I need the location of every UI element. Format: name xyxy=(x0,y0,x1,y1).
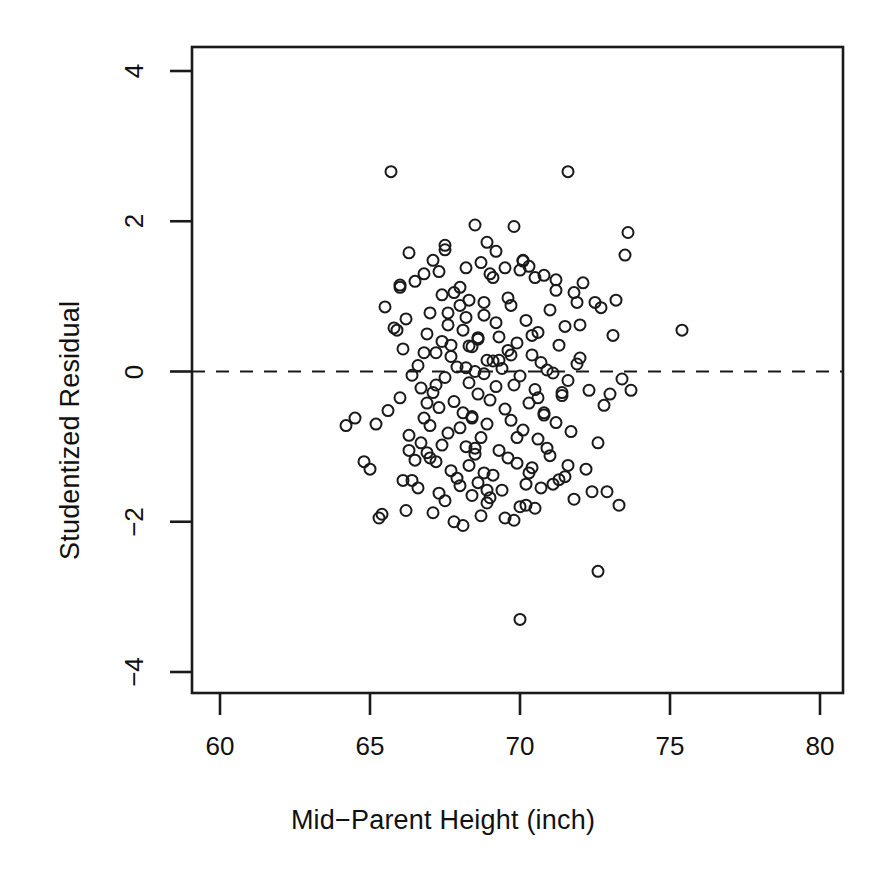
data-point xyxy=(359,456,370,467)
data-point xyxy=(479,297,490,308)
data-point xyxy=(491,317,502,328)
data-point xyxy=(611,295,622,306)
data-point xyxy=(626,385,637,396)
data-point xyxy=(581,464,592,475)
data-point xyxy=(515,614,526,625)
x-tick-label-75: 75 xyxy=(656,731,685,762)
data-point xyxy=(491,381,502,392)
data-point xyxy=(434,488,445,499)
data-point xyxy=(572,297,583,308)
data-point xyxy=(398,343,409,354)
y-tick-label--4: −4 xyxy=(119,657,150,687)
data-point xyxy=(563,375,574,386)
data-point xyxy=(449,396,460,407)
data-point xyxy=(380,301,391,312)
data-point xyxy=(443,428,454,439)
data-point xyxy=(416,383,427,394)
data-point xyxy=(575,319,586,330)
data-point xyxy=(497,485,508,496)
data-point xyxy=(593,566,604,577)
data-point xyxy=(365,464,376,475)
data-point xyxy=(473,389,484,400)
data-point xyxy=(467,490,478,501)
data-point xyxy=(551,285,562,296)
x-axis-title: Mid−Parent Height (inch) xyxy=(0,805,886,836)
data-point xyxy=(455,422,466,433)
data-point xyxy=(410,276,421,287)
data-point xyxy=(461,312,472,323)
data-point xyxy=(428,507,439,518)
data-point xyxy=(443,307,454,318)
data-point xyxy=(443,319,454,330)
y-tick-label-4: 4 xyxy=(119,64,150,78)
data-point xyxy=(419,347,430,358)
data-point xyxy=(509,380,520,391)
y-tick-label-2: 2 xyxy=(119,214,150,228)
data-point xyxy=(422,398,433,409)
data-point xyxy=(602,486,613,497)
data-point xyxy=(551,417,562,428)
data-point xyxy=(506,415,517,426)
data-point xyxy=(551,274,562,285)
data-point xyxy=(554,340,565,351)
data-point xyxy=(518,425,529,436)
data-point xyxy=(617,374,628,385)
data-point xyxy=(464,460,475,471)
data-point xyxy=(425,307,436,318)
data-point xyxy=(584,385,595,396)
data-point xyxy=(677,325,688,336)
data-point xyxy=(431,347,442,358)
data-point xyxy=(464,377,475,388)
x-tick-label-80: 80 xyxy=(806,731,835,762)
data-point xyxy=(389,322,400,333)
plot-box xyxy=(192,47,843,693)
x-tick-label-60: 60 xyxy=(206,731,235,762)
data-point xyxy=(500,262,511,273)
y-tick-label-0: 0 xyxy=(119,364,150,378)
data-point xyxy=(593,437,604,448)
data-point xyxy=(533,434,544,445)
data-point xyxy=(569,494,580,505)
data-point xyxy=(428,255,439,266)
data-point xyxy=(623,227,634,238)
data-point xyxy=(476,257,487,268)
data-point xyxy=(509,221,520,232)
data-point xyxy=(512,458,523,469)
data-point xyxy=(401,313,412,324)
data-point xyxy=(350,413,361,424)
data-point xyxy=(446,465,457,476)
data-point xyxy=(425,420,436,431)
data-point xyxy=(470,220,481,231)
data-point xyxy=(578,277,589,288)
data-point xyxy=(437,289,448,300)
scatter-plot-figure: 6065707580 −4−2024 Mid−Parent Height (in… xyxy=(0,0,886,891)
data-point xyxy=(605,389,616,400)
data-point xyxy=(413,482,424,493)
data-point xyxy=(587,486,598,497)
data-point xyxy=(614,500,625,511)
data-point xyxy=(461,262,472,273)
data-point xyxy=(446,351,457,362)
data-point xyxy=(479,310,490,321)
data-point xyxy=(512,432,523,443)
data-point xyxy=(476,510,487,521)
data-point xyxy=(536,482,547,493)
data-point xyxy=(608,330,619,341)
x-tick-label-65: 65 xyxy=(356,731,385,762)
data-point xyxy=(401,505,412,516)
data-point xyxy=(386,166,397,177)
data-point xyxy=(458,325,469,336)
data-point xyxy=(482,419,493,430)
data-point xyxy=(434,402,445,413)
data-point xyxy=(416,437,427,448)
data-point xyxy=(521,479,532,490)
data-point xyxy=(485,395,496,406)
data-point xyxy=(563,166,574,177)
data-point xyxy=(395,392,406,403)
data-point xyxy=(419,413,430,424)
data-point xyxy=(566,426,577,437)
x-axis-ticks xyxy=(220,693,820,715)
data-point xyxy=(440,495,451,506)
data-point xyxy=(560,321,571,332)
y-tick-label--2: −2 xyxy=(119,507,150,537)
